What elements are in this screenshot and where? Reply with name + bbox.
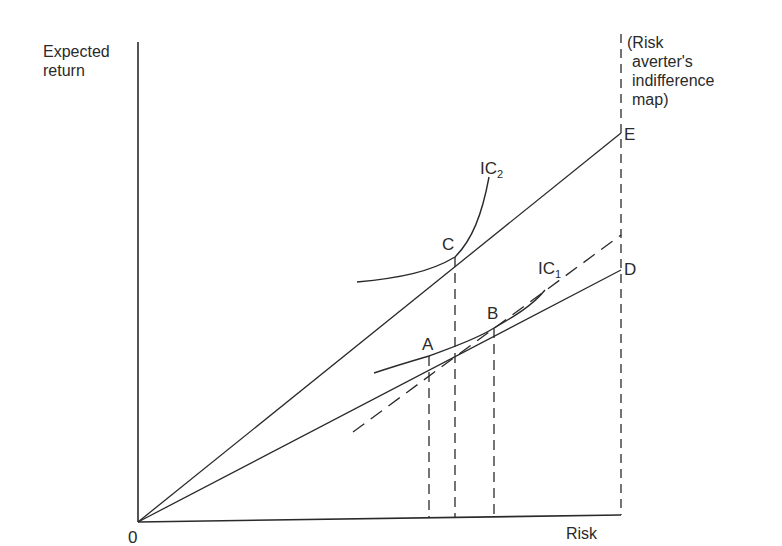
point-label-B: B (487, 304, 498, 323)
ic2-label-subscript: 2 (497, 168, 503, 180)
ic1-label-main: IC (538, 259, 555, 278)
annotation-line1: (Risk (627, 33, 714, 52)
point-label-C: C (442, 235, 454, 254)
ic2-curve (357, 177, 489, 282)
point-label-D: D (624, 260, 636, 279)
y-axis-label-line1: Expected (43, 42, 110, 61)
y-axis-label: Expected return (43, 42, 110, 80)
annotation-line4: map) (627, 90, 714, 109)
ic2-label-main: IC (480, 159, 497, 178)
ic1-curve (374, 290, 545, 373)
x-axis-label: Risk (566, 524, 597, 543)
ic1-label: IC1 (538, 259, 561, 280)
y-axis-label-line2: return (43, 61, 110, 80)
annotation-line3: indifference (627, 71, 714, 90)
point-label-E: E (624, 125, 635, 144)
indifference-map-annotation: (Risk averter's indifference map) (627, 33, 714, 109)
dashed-tangent-line (353, 235, 621, 432)
ic2-label: IC2 (480, 159, 503, 180)
ic1-label-subscript: 1 (555, 268, 561, 280)
annotation-line2: averter's (627, 52, 714, 71)
x-axis (138, 515, 621, 522)
line-0-D (138, 270, 621, 522)
point-label-A: A (422, 335, 433, 354)
line-0-E (138, 133, 621, 522)
origin-label: 0 (128, 528, 137, 546)
